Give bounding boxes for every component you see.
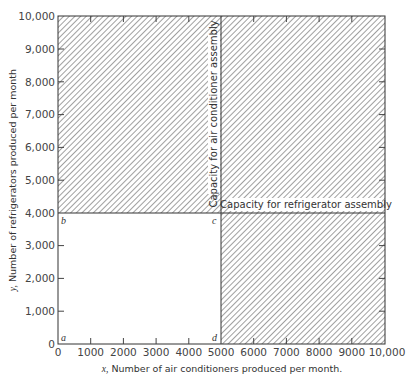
svg-text:1,000: 1,000: [25, 305, 55, 317]
svg-text:10,000: 10,000: [18, 10, 55, 22]
svg-text:5000: 5000: [208, 346, 235, 358]
point-c-label: c: [212, 215, 217, 226]
y-axis-title: y, Number of refrigerators produced per …: [7, 69, 18, 292]
svg-text:3,000: 3,000: [25, 239, 55, 251]
x-axis-title: x, Number of air conditioners produced p…: [101, 363, 342, 374]
point-a-label: a: [61, 332, 66, 343]
point-d-label: d: [212, 332, 218, 343]
svg-text:0: 0: [48, 338, 55, 350]
svg-text:6000: 6000: [240, 346, 267, 358]
svg-text:2000: 2000: [110, 346, 137, 358]
svg-text:7000: 7000: [273, 346, 300, 358]
svg-text:7,000: 7,000: [25, 108, 55, 120]
svg-text:4,000: 4,000: [25, 207, 55, 219]
x-tick-labels: 0 1000 2000 3000 4000 5000 6000 7000 800…: [55, 346, 406, 358]
svg-text:9000: 9000: [338, 346, 365, 358]
svg-text:3000: 3000: [143, 346, 170, 358]
ac-capacity-label: Capacity for air conditioner assembly: [208, 20, 219, 207]
svg-text:4000: 4000: [175, 346, 202, 358]
svg-text:6,000: 6,000: [25, 141, 55, 153]
y-tick-labels: 0 1,000 2,000 3,000 4,000 5,000 6,000 7,…: [18, 10, 55, 350]
svg-text:8,000: 8,000: [25, 76, 55, 88]
fr-capacity-label: Capacity for refrigerator assembly: [220, 199, 392, 210]
point-b-label: b: [61, 215, 66, 226]
svg-text:10,000: 10,000: [369, 346, 406, 358]
svg-text:9,000: 9,000: [25, 43, 55, 55]
svg-text:5,000: 5,000: [25, 174, 55, 186]
svg-text:1000: 1000: [77, 346, 104, 358]
svg-text:2,000: 2,000: [25, 272, 55, 284]
svg-text:8000: 8000: [306, 346, 333, 358]
svg-text:0: 0: [55, 346, 62, 358]
feasible-region-chart: 0 1000 2000 3000 4000 5000 6000 7000 800…: [0, 0, 413, 384]
